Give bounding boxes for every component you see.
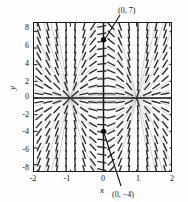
y-tick-label-neg4: -4 — [9, 128, 29, 136]
y-tick-label-0: 0 — [11, 93, 29, 101]
y-tick-label-neg8: -8 — [9, 164, 29, 172]
point-label-bottom: (0, −4) — [112, 190, 134, 199]
x-tick-label-0: 0 — [94, 175, 112, 183]
y-tick-label-8: 8 — [11, 24, 29, 32]
y-axis-title: y — [7, 86, 17, 90]
y-tick-label-6: 6 — [11, 42, 29, 50]
y-tick-label-neg2: -2 — [9, 111, 29, 119]
y-tick-label-2: 2 — [11, 78, 29, 86]
point-label-top: (0, 7) — [118, 6, 135, 15]
x-axis-title: x — [100, 185, 104, 195]
y-tick-label-neg6: -6 — [9, 146, 29, 154]
slope-field-figure: 8 6 4 2 0 -2 -4 -6 -8 -2 -1 0 1 2 y x (0… — [0, 0, 188, 202]
x-tick-label-neg1: -1 — [58, 175, 76, 183]
plot-frame — [33, 22, 172, 172]
x-tick-label-neg2: -2 — [24, 175, 42, 183]
slope-field-canvas — [34, 23, 172, 172]
y-tick-label-4: 4 — [11, 60, 29, 68]
x-tick-label-2: 2 — [163, 175, 181, 183]
x-tick-label-1: 1 — [129, 175, 147, 183]
